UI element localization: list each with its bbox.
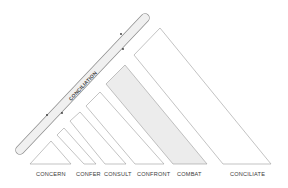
arrow-up-icon [120,33,122,35]
stage-label-consult: CONSULT [104,171,132,177]
stage-label-confront: CONFRONT [137,171,171,177]
arrow-down-icon [46,114,48,116]
stage-label-concern: CONCERN [36,171,66,177]
stage-label-confer: CONFER [76,171,101,177]
stage-label-conciliate: CONCILIATE [230,171,265,177]
arrow-down-icon [61,112,63,114]
stage-conciliate-shape [134,28,271,164]
stage-label-combat: COMBAT [177,171,202,177]
bar-label: CONCILIATION [67,70,98,102]
arrow-up-icon [122,48,124,50]
conflict-escalation-diagram: CONCILIATION CONCERN CONFER CONSULT CONF… [0,0,288,188]
stage-concern-shape [30,141,71,164]
